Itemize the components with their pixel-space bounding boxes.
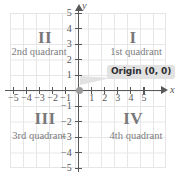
y-axis-tick-label: 1 [58, 70, 72, 80]
x-axis-tick-label: −3 [33, 93, 47, 103]
x-axis-tick-label: −5 [6, 93, 20, 103]
y-axis-tick [75, 106, 82, 107]
y-axis-tick [75, 152, 82, 153]
y-axis-tick-label: −4 [58, 148, 72, 158]
y-axis-tick-label: −5 [58, 163, 72, 173]
x-axis-label: x [170, 84, 175, 95]
x-axis-tick-label: 4 [124, 93, 138, 103]
y-axis-tick [75, 13, 82, 14]
origin-point-marker [76, 87, 83, 94]
quadrant-label-first: 1st quadrant [100, 47, 172, 58]
y-axis-label: y [82, 0, 87, 11]
quadrant-numeral-third: III [22, 110, 68, 127]
quadrant-label-third: 3rd quadrant [3, 131, 75, 142]
origin-callout-box: Origin (0, 0) [107, 65, 175, 79]
origin-callout-label: Origin (0, 0) [111, 67, 171, 76]
y-axis-tick [75, 28, 82, 29]
coordinate-plane-figure: x y −5−4−3−2−11234554321−1−2−3−4−5 Origi… [0, 0, 180, 178]
quadrant-numeral-first: I [110, 29, 156, 46]
y-axis-tick [75, 59, 82, 60]
quadrant-numeral-fourth: IV [110, 110, 156, 127]
quadrant-label-fourth: 4th quadrant [100, 131, 172, 142]
y-axis-tick [75, 121, 82, 122]
quadrant-label-second: 2nd quadrant [3, 47, 75, 58]
x-axis-arrowhead-icon [161, 86, 168, 94]
x-axis-tick-label: 3 [111, 93, 125, 103]
y-axis-tick [75, 44, 82, 45]
quadrant-numeral-second: II [22, 29, 68, 46]
x-axis-tick-label: 5 [137, 93, 151, 103]
y-axis-tick [75, 168, 82, 169]
y-axis-tick [75, 137, 82, 138]
x-axis-tick-label: 1 [85, 93, 99, 103]
x-axis-tick-label: 2 [98, 93, 112, 103]
x-axis-tick-label: −4 [20, 93, 34, 103]
y-axis-tick-label: 5 [58, 8, 72, 18]
